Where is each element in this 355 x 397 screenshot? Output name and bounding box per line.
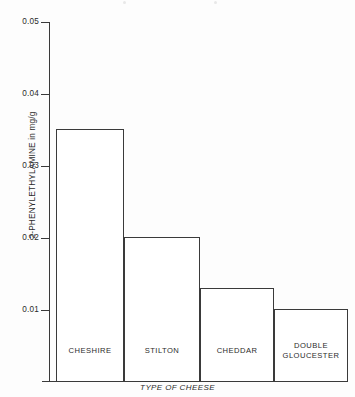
bar-cheshire [56, 129, 124, 381]
bar-label-stilton: STILTON [124, 346, 200, 356]
y-axis-line [49, 22, 50, 382]
bar-label-line-1: DOUBLE [294, 341, 328, 350]
y-tick-label-0.05: 0.05 [0, 17, 39, 26]
bar-stilton [124, 237, 200, 381]
y-tick-label-0.02: 0.02 [0, 233, 39, 242]
y-tick-label-0.01: 0.01 [0, 305, 39, 314]
y-tick-0.05 [41, 22, 50, 23]
bar-chart-figure: 2-PHENYLETHYLAMINE in mg/g 0.05 0.04 0.0… [0, 0, 355, 397]
bar-label-cheshire: CHESHIRE [56, 346, 124, 356]
y-tick-0.04 [41, 94, 50, 95]
y-tick-0.02 [41, 238, 50, 239]
y-tick-0.01 [41, 310, 50, 311]
scan-artifact [123, 1, 126, 4]
scan-artifact [214, 1, 217, 4]
bar-label-cheddar: CHEDDAR [200, 346, 274, 356]
bar-cheddar [200, 288, 274, 382]
bar-label-line-2: GLOUCESTER [283, 351, 340, 360]
y-tick-0.03 [41, 166, 50, 167]
bar-label-double-gloucester: DOUBLE GLOUCESTER [274, 341, 348, 361]
y-tick-label-0.04: 0.04 [0, 89, 39, 98]
x-axis-label: TYPE OF CHEESE [0, 383, 355, 392]
y-tick-label-0.03: 0.03 [0, 161, 39, 170]
